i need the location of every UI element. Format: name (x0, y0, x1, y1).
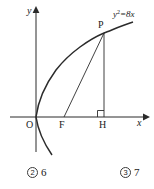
segment-fp (64, 33, 104, 117)
figure-canvas: O F H P x y y2=8x (0, 0, 154, 163)
y-axis-arrowhead (33, 6, 40, 13)
option-value-2: 6 (41, 167, 47, 178)
answer-option-2[interactable]: 2 6 (27, 167, 47, 178)
y-axis-label: y (26, 5, 32, 16)
answer-options-row: 2 6 3 7 (0, 163, 154, 189)
option-value-3: 7 (134, 167, 140, 178)
point-label-h: H (99, 119, 106, 130)
parabola-curve (36, 22, 133, 155)
equation-rest: =8x (120, 9, 135, 19)
option-marker-2: 2 (27, 167, 38, 178)
x-axis-arrowhead (143, 114, 150, 121)
option-marker-3: 3 (120, 167, 131, 178)
x-axis-label: x (136, 117, 142, 128)
point-label-o: O (26, 119, 33, 130)
parabola-figure: O F H P x y y2=8x (0, 0, 154, 163)
right-angle-mark-h (98, 111, 105, 118)
curve-equation-label: y2=8x (112, 9, 135, 19)
answer-option-3[interactable]: 3 7 (120, 167, 140, 178)
point-label-f: F (59, 119, 65, 130)
point-label-p: P (98, 19, 104, 30)
